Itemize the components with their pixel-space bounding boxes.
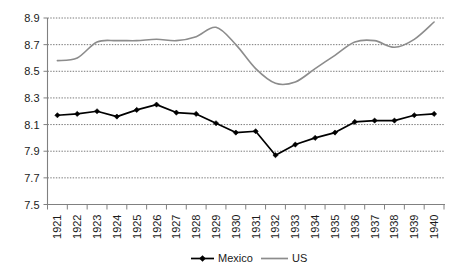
data-point-marker — [174, 110, 179, 115]
data-point-marker — [233, 130, 238, 135]
data-point-marker — [372, 118, 377, 123]
y-axis-tick-labels: 7.57.77.98.18.38.58.78.9 — [24, 12, 39, 211]
chart-container: 7.57.77.98.18.38.58.78.9 192119221923192… — [0, 0, 461, 272]
data-point-marker — [154, 102, 159, 107]
x-tick-label: 1933 — [289, 215, 301, 239]
y-tick-label: 7.7 — [24, 172, 39, 184]
x-tick-label: 1934 — [309, 215, 321, 239]
line-chart: 7.57.77.98.18.38.58.78.9 192119221923192… — [0, 0, 461, 272]
data-point-marker — [114, 114, 119, 119]
data-point-marker — [392, 118, 397, 123]
y-tick-label: 8.3 — [24, 92, 39, 104]
legend-marker-mexico-icon — [199, 255, 206, 262]
y-tick-label: 8.1 — [24, 119, 39, 131]
x-axis-tick-marks — [48, 205, 445, 210]
data-point-marker — [213, 121, 218, 126]
gridlines-group — [48, 18, 445, 178]
x-tick-label: 1929 — [210, 215, 222, 239]
data-point-marker — [134, 107, 139, 112]
x-tick-label: 1922 — [71, 215, 83, 239]
x-tick-label: 1936 — [349, 215, 361, 239]
x-tick-label: 1938 — [388, 215, 400, 239]
series-line-us — [57, 22, 434, 84]
x-tick-label: 1924 — [111, 215, 123, 239]
x-axis-tick-labels: 1921192219231924192519261927192819291930… — [51, 215, 440, 239]
data-point-marker — [94, 109, 99, 114]
x-tick-label: 1921 — [51, 215, 63, 239]
x-tick-label: 1927 — [170, 215, 182, 239]
series-line-mexico — [57, 105, 434, 156]
x-tick-label: 1926 — [151, 215, 163, 239]
y-tick-label: 8.7 — [24, 39, 39, 51]
data-point-marker — [55, 113, 60, 118]
data-point-marker — [431, 111, 436, 116]
y-tick-label: 7.5 — [24, 199, 39, 211]
x-tick-label: 1935 — [329, 215, 341, 239]
data-point-marker — [194, 111, 199, 116]
legend-label-mexico: Mexico — [218, 252, 253, 264]
y-axis-tick-marks — [44, 18, 48, 205]
x-tick-label: 1939 — [408, 215, 420, 239]
y-tick-label: 7.9 — [24, 145, 39, 157]
legend: Mexico US — [191, 252, 307, 264]
data-point-marker — [412, 113, 417, 118]
x-tick-label: 1925 — [131, 215, 143, 239]
x-tick-label: 1940 — [428, 215, 440, 239]
series-markers-mexico — [55, 102, 437, 158]
x-tick-label: 1928 — [190, 215, 202, 239]
x-tick-label: 1931 — [250, 215, 262, 239]
x-tick-label: 1932 — [269, 215, 281, 239]
x-tick-label: 1937 — [369, 215, 381, 239]
data-point-marker — [75, 111, 80, 116]
legend-label-us: US — [292, 252, 307, 264]
y-tick-label: 8.5 — [24, 65, 39, 77]
x-tick-label: 1923 — [91, 215, 103, 239]
data-point-marker — [313, 135, 318, 140]
x-tick-label: 1930 — [230, 215, 242, 239]
y-tick-label: 8.9 — [24, 12, 39, 24]
